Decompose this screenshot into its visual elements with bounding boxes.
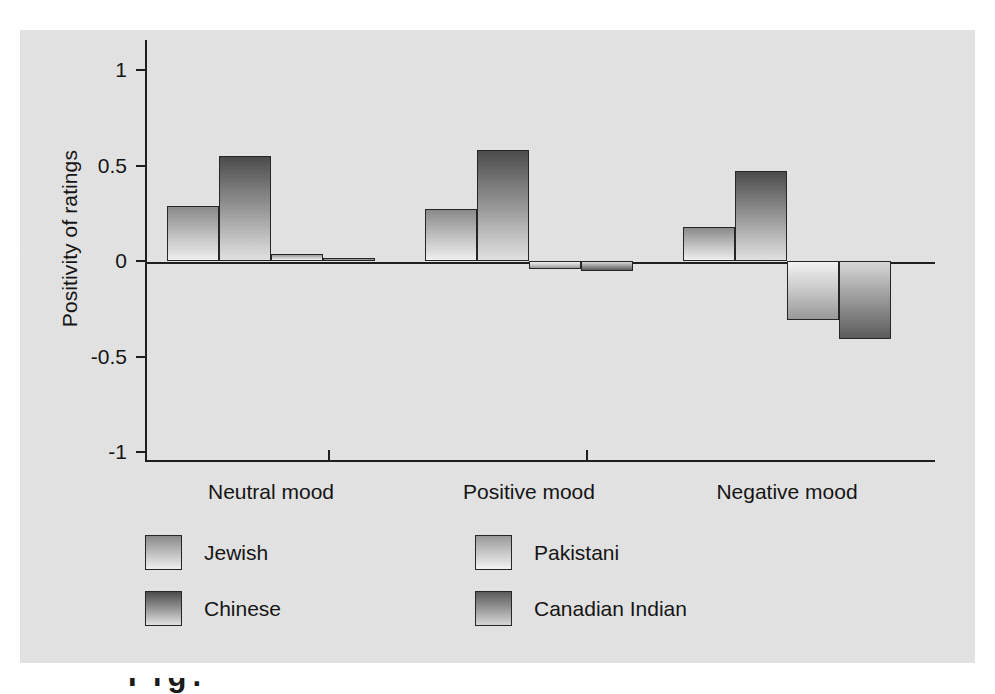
bar: [219, 156, 271, 261]
legend-item: Canadian Indian: [475, 591, 687, 626]
x-axis-group-label: Neutral mood: [208, 480, 334, 504]
y-axis-tick-label: 0.5: [98, 154, 127, 178]
bar: [735, 171, 787, 261]
legend-swatch: [145, 535, 182, 570]
y-axis-tick: 0.5: [136, 165, 146, 167]
bar: [167, 206, 219, 261]
legend-label: Jewish: [204, 541, 268, 565]
x-axis-tick: [328, 450, 330, 462]
bar: [323, 258, 375, 261]
legend-label: Chinese: [204, 597, 281, 621]
plot-area: 10.50-0.5-1 Neutral moodPositive moodNeg…: [145, 40, 935, 462]
bar: [581, 261, 633, 271]
legend-swatch: [145, 591, 182, 626]
y-axis-label: Positivity of ratings: [58, 150, 82, 327]
y-axis-spine: [145, 40, 147, 462]
bar: [839, 261, 891, 339]
y-axis-tick-label: -0.5: [91, 345, 127, 369]
caption-fragment-text: Fig.: [128, 678, 207, 694]
y-axis-tick: 0: [136, 260, 146, 262]
y-axis-tick-label: -1: [108, 440, 127, 464]
y-axis-tick: -0.5: [136, 356, 146, 358]
x-axis-group-label: Negative mood: [716, 480, 857, 504]
x-axis-group-label: Positive mood: [463, 480, 595, 504]
legend-swatch: [475, 591, 512, 626]
chart-legend: JewishPakistaniChineseCanadian Indian: [145, 535, 845, 645]
legend-item: Chinese: [145, 591, 281, 626]
x-axis-spine: [145, 460, 935, 462]
bar: [477, 150, 529, 261]
y-axis-tick-label: 0: [115, 249, 127, 273]
y-axis-tick-label: 1: [115, 58, 127, 82]
bar: [787, 261, 839, 320]
y-axis-tick: -1: [136, 451, 146, 453]
legend-label: Canadian Indian: [534, 597, 687, 621]
x-axis-tick: [586, 450, 588, 462]
bar: [425, 209, 477, 261]
legend-item: Jewish: [145, 535, 268, 570]
legend-item: Pakistani: [475, 535, 619, 570]
bar: [529, 261, 581, 269]
figure-panel: Positivity of ratings 10.50-0.5-1 Neutra…: [20, 30, 975, 663]
legend-swatch: [475, 535, 512, 570]
bar: [683, 227, 735, 261]
y-axis-tick: 1: [136, 69, 146, 71]
legend-label: Pakistani: [534, 541, 619, 565]
caption-fragment: Fig.: [0, 678, 995, 694]
bar: [271, 254, 323, 261]
